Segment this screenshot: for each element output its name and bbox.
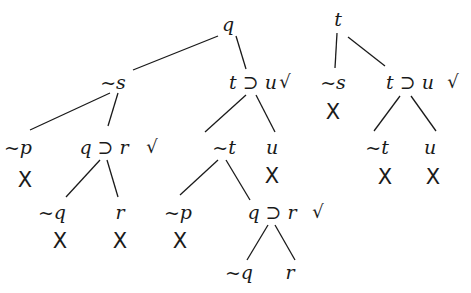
- closed-branch-x-icon: X: [378, 167, 392, 188]
- tree-node: q: [222, 15, 234, 34]
- tree-edge: [411, 96, 436, 131]
- check-icon: √: [312, 203, 323, 221]
- tree-edge: [180, 160, 218, 195]
- tree-node: r: [115, 203, 124, 222]
- tree-edge: [226, 160, 250, 200]
- tree-node: q ⊃ r: [247, 203, 296, 222]
- tree-node: ~s: [320, 73, 346, 92]
- tree-edge: [133, 36, 218, 70]
- tree-edge: [335, 33, 337, 68]
- tree-node: t: [334, 10, 342, 29]
- tree-node: ~q: [225, 263, 253, 282]
- tree-node: u: [266, 138, 278, 157]
- closed-branch-x-icon: X: [53, 231, 67, 252]
- closed-branch-x-icon: X: [173, 231, 187, 252]
- tree-edge: [30, 93, 110, 130]
- check-icon: √: [146, 138, 157, 156]
- tree-edge: [247, 225, 268, 260]
- tree-node: ~s: [100, 73, 126, 92]
- tree-edge: [205, 95, 246, 132]
- tree-node: ~q: [38, 203, 66, 222]
- check-icon: √: [279, 73, 290, 91]
- closed-branch-x-icon: X: [18, 170, 32, 191]
- tree-edge: [108, 93, 118, 126]
- closed-branch-x-icon: X: [265, 166, 279, 187]
- tree-edge: [236, 36, 246, 69]
- tree-edge: [374, 96, 400, 131]
- tree-node: t ⊃ u: [386, 73, 434, 92]
- tree-node: ~t: [212, 138, 236, 157]
- tree-node: ~p: [4, 138, 32, 157]
- tree-edge: [66, 160, 100, 197]
- tree-node: ~t: [365, 138, 389, 157]
- truth-tree-diagram: q~st ⊃ u~pq ⊃ r~tu~qr~pq ⊃ r~qr√√√XXXXXt…: [0, 0, 471, 293]
- tree-edge: [256, 95, 275, 132]
- closed-branch-x-icon: X: [426, 167, 440, 188]
- tree-node: ~p: [164, 203, 192, 222]
- tree-node: t ⊃ u: [229, 73, 277, 92]
- tree-node: q ⊃ r: [79, 138, 128, 157]
- tree-edge: [107, 160, 118, 197]
- check-icon: √: [447, 73, 458, 91]
- closed-branch-x-icon: X: [113, 231, 127, 252]
- closed-branch-x-icon: X: [326, 102, 340, 123]
- tree-edge: [275, 225, 295, 260]
- tree-node: r: [285, 263, 294, 282]
- tree-edge: [348, 37, 385, 66]
- tree-node: u: [424, 138, 436, 157]
